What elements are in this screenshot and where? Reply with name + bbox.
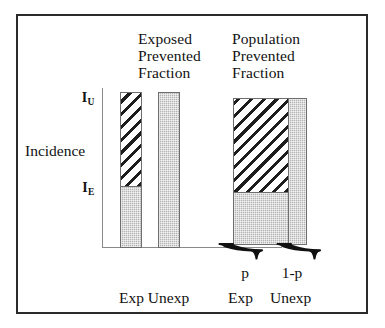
right-panel-title-line-2: Prevented — [232, 47, 300, 64]
y-axis-label: Incidence — [25, 142, 101, 160]
right-category-label-unexp: Unexp — [270, 289, 311, 307]
right-panel-title-line-3: Fraction — [232, 64, 300, 81]
right-bar-exp-solid-segment — [233, 192, 289, 245]
y-axis-line — [102, 88, 103, 248]
y-axis-tick-ie-base: I — [82, 180, 87, 195]
proportion-label-1-minus-p: 1-p — [274, 264, 310, 282]
brace-1-minus-p — [278, 244, 321, 259]
left-panel-title-line-1: Exposed — [138, 30, 201, 47]
y-axis-tick-ie-subscript: E — [88, 187, 94, 197]
y-axis-tick-ie: IE — [60, 180, 94, 196]
proportion-label-p: p — [232, 264, 258, 282]
left-bar-exp-solid-segment — [120, 186, 142, 248]
right-panel-title-line-1: Population — [232, 30, 300, 47]
y-axis-tick-iu: IU — [60, 90, 94, 106]
y-axis-tick-iu-base: I — [82, 90, 87, 105]
right-bar-exp-hatched-segment — [233, 98, 289, 193]
figure-stage: Exposed Prevented Fraction Population Pr… — [18, 16, 366, 312]
right-panel-title: Population Prevented Fraction — [232, 30, 300, 81]
right-category-label-exp: Exp — [228, 289, 253, 307]
brace-p — [220, 244, 263, 259]
left-bar-unexp-solid-segment — [158, 92, 180, 248]
proportion-brace-group — [214, 242, 326, 264]
left-bar-exp-hatched-segment — [120, 92, 142, 187]
left-panel-title-line-2: Prevented — [138, 47, 201, 64]
left-panel-title: Exposed Prevented Fraction — [138, 30, 201, 81]
figure-frame: Exposed Prevented Fraction Population Pr… — [16, 14, 368, 314]
right-bar-unexp-solid-segment — [288, 98, 307, 245]
left-panel-title-line-3: Fraction — [138, 64, 201, 81]
left-category-labels: Exp Unexp — [119, 289, 189, 307]
y-axis-tick-iu-subscript: U — [88, 97, 95, 107]
